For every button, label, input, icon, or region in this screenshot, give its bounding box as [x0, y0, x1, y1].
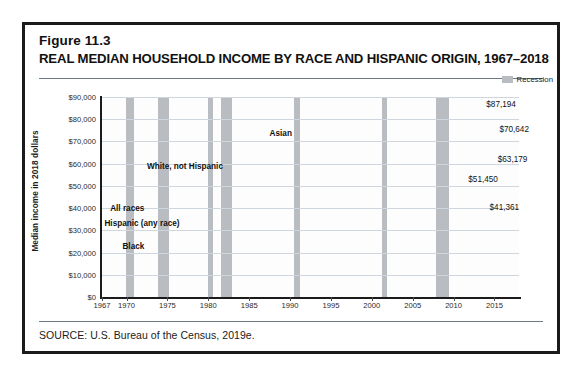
recession-band [294, 97, 300, 297]
series-label: White, not Hispanic [147, 162, 223, 171]
y-tick-label: $70,000 [69, 137, 96, 146]
x-tick-label: 2010 [445, 301, 462, 310]
y-tick-label: $90,000 [69, 93, 96, 102]
chart-area: Median income in 2018 dollars Recession … [33, 85, 555, 317]
legend-label-recession: Recession [517, 75, 553, 84]
chart-legend: Recession [502, 75, 553, 84]
recession-band [436, 97, 449, 297]
gridline [102, 141, 519, 142]
source-note: SOURCE: U.S. Bureau of the Census, 2019e… [39, 329, 255, 341]
gridline [102, 119, 519, 120]
plot-area: $0$10,000$20,000$30,000$40,000$50,000$60… [102, 97, 519, 297]
x-tick-label: 1967 [94, 301, 111, 310]
gridline [102, 186, 519, 187]
x-tick-label: 1985 [241, 301, 258, 310]
figure-number: Figure 11.3 [39, 33, 539, 49]
y-tick-label: $20,000 [69, 248, 96, 257]
x-tick-label: 1980 [200, 301, 217, 310]
recession-band [208, 97, 213, 297]
recession-band [382, 97, 388, 297]
series-end-label: $51,450 [468, 175, 498, 184]
y-tick-label: $80,000 [69, 115, 96, 124]
series-end-label: $87,194 [486, 100, 516, 109]
recession-band [126, 97, 134, 297]
figure-header: Figure 11.3 REAL MEDIAN HOUSEHOLD INCOME… [39, 33, 539, 67]
x-tick-label: 1990 [282, 301, 299, 310]
series-end-label: $63,179 [498, 155, 528, 164]
y-tick-label: $40,000 [69, 204, 96, 213]
x-tick-label: 1995 [322, 301, 339, 310]
y-tick-label: $30,000 [69, 226, 96, 235]
gridline [102, 97, 519, 98]
gridline [102, 253, 519, 254]
x-tick-label: 1970 [118, 301, 135, 310]
y-tick-label: $10,000 [69, 270, 96, 279]
figure-title: REAL MEDIAN HOUSEHOLD INCOME BY RACE AND… [39, 50, 539, 67]
x-tick-label: 2005 [404, 301, 421, 310]
y-tick-label: $50,000 [69, 181, 96, 190]
series-end-label: $70,642 [499, 125, 529, 134]
recession-band [221, 97, 232, 297]
y-axis-title: Median income in 2018 dollars [31, 130, 40, 251]
y-axis-line [100, 96, 102, 298]
gridline [102, 208, 519, 209]
y-tick-label: $60,000 [69, 159, 96, 168]
x-tick-label: 2015 [486, 301, 503, 310]
x-axis-line [100, 297, 521, 299]
x-tick-label: 2000 [363, 301, 380, 310]
header-divider [39, 78, 543, 79]
figure-frame: Figure 11.3 REAL MEDIAN HOUSEHOLD INCOME… [22, 22, 560, 354]
footer-divider [39, 321, 543, 322]
recession-band [158, 97, 169, 297]
gridline [102, 275, 519, 276]
series-label: Asian [270, 129, 292, 138]
gridline [102, 230, 519, 231]
series-label: Black [122, 242, 144, 251]
x-tick-label: 1975 [159, 301, 176, 310]
series-label: All races [110, 204, 144, 213]
series-end-label: $41,361 [490, 203, 520, 212]
series-label: Hispanic (any race) [104, 219, 179, 228]
recession-swatch-icon [502, 76, 513, 83]
